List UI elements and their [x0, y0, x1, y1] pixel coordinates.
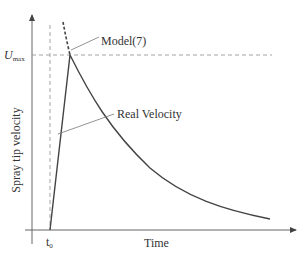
model-curve: [63, 22, 70, 55]
real-leader-line: [58, 114, 114, 134]
umax-tick-label: Umax: [4, 48, 25, 63]
model-label: Model(7): [101, 34, 146, 48]
y-axis-label: Spray tip velocity: [9, 107, 23, 192]
real-velocity-label: Real Velocity: [117, 107, 182, 121]
model-leader-line: [71, 37, 99, 50]
x-axis-label: Time: [144, 236, 169, 250]
t0-tick-label: t0: [46, 235, 53, 250]
velocity-diagram: Model(7) Real Velocity Umax t0 Time Spra…: [0, 0, 305, 257]
real-velocity-curve: [50, 55, 270, 230]
